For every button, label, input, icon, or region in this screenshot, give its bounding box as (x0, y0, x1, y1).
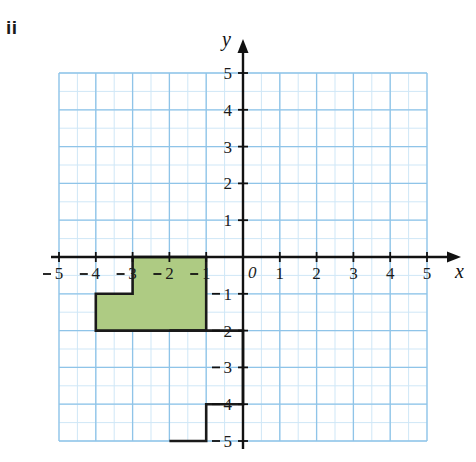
x-axis-tick-label: 1 (202, 264, 211, 283)
y-axis-arrow-icon (238, 39, 249, 53)
y-axis-tick-label: 1 (224, 285, 233, 304)
figure-container: ii 54321123455432112345 x y 0 (0, 0, 476, 462)
x-axis-tick-label: 3 (349, 264, 358, 283)
x-axis-tick-label: 2 (165, 264, 174, 283)
y-axis-tick-label: 2 (224, 322, 233, 341)
y-axis-tick-label: 3 (224, 138, 233, 157)
x-axis-tick-label: 5 (55, 264, 64, 283)
x-axis-tick-label: 2 (312, 264, 321, 283)
y-axis-label: y (220, 28, 231, 51)
x-axis-tick-label: 3 (128, 264, 137, 283)
shaded-polygon (96, 257, 206, 331)
y-axis-tick-label: 5 (224, 432, 233, 451)
y-axis-tick-label: 2 (224, 174, 233, 193)
x-axis-tick-label: 1 (276, 264, 285, 283)
x-axis-tick-label: 4 (92, 264, 101, 283)
y-axis-tick-label: 4 (224, 395, 233, 414)
y-axis-tick-label: 1 (224, 211, 233, 230)
origin-label: 0 (248, 263, 257, 282)
y-axis-tick-label: 3 (224, 358, 233, 377)
x-axis-tick-label: 5 (423, 264, 432, 283)
y-axis-tick-label: 4 (224, 101, 233, 120)
x-axis-label: x (454, 260, 464, 282)
axes-layer (51, 39, 461, 449)
coordinate-plot: 54321123455432112345 x y 0 (0, 0, 476, 462)
y-axis-tick-label: 5 (224, 64, 233, 83)
x-axis-tick-label: 4 (386, 264, 395, 283)
